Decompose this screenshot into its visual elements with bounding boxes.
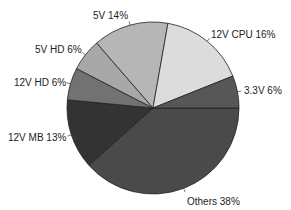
- label-12v-mb: 12V MB 13%: [8, 132, 66, 143]
- label-12v-hd: 12V HD 6%: [14, 77, 66, 88]
- label-leader-line: [237, 91, 241, 92]
- label-leader-line: [129, 21, 130, 25]
- label-5v: 5V 14%: [93, 10, 128, 21]
- label-leader-line: [184, 188, 185, 192]
- label-leader-line: [82, 52, 85, 54]
- label-3-3v: 3.3V 6%: [244, 85, 282, 96]
- label-leader-line: [68, 135, 72, 136]
- label-leader-line: [67, 83, 71, 84]
- label-others: Others 38%: [187, 196, 240, 207]
- label-12v-cpu: 12V CPU 16%: [211, 29, 275, 40]
- label-leader-line: [207, 38, 210, 41]
- label-5v-hd: 5V HD 6%: [35, 44, 82, 55]
